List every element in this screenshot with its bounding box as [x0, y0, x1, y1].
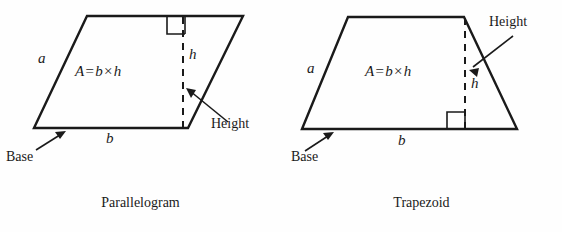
right-angle-icon — [447, 112, 465, 129]
height-arrowhead-icon — [186, 88, 196, 98]
formula-height: h — [404, 63, 412, 79]
figure-caption-trapezoid: Trapezoid — [281, 196, 562, 210]
label-side-a: a — [307, 61, 315, 76]
formula-times-icon: × — [103, 63, 114, 79]
area-formula: A=b×h — [75, 64, 122, 79]
callout-base: Base — [291, 150, 318, 164]
parallelogram-outline — [34, 16, 243, 128]
formula-height: h — [114, 63, 122, 79]
formula-equals: = — [84, 63, 95, 79]
formula-base: b — [385, 63, 393, 79]
callout-height: Height — [211, 117, 249, 131]
figure-trapezoid: a A=b×h h b Base Height Trapezoid — [281, 0, 562, 232]
figure-caption-parallelogram: Parallelogram — [0, 196, 281, 210]
label-side-a: a — [38, 51, 46, 66]
label-base-b: b — [106, 131, 114, 146]
formula-equals: = — [374, 63, 385, 79]
callout-height: Height — [489, 15, 527, 29]
formula-base: b — [95, 63, 103, 79]
label-height-h: h — [189, 47, 197, 62]
formula-times-icon: × — [393, 63, 404, 79]
label-height-h: h — [471, 76, 479, 91]
label-base-b: b — [398, 133, 406, 148]
callout-base: Base — [6, 150, 33, 164]
figure-parallelogram: a A=b×h h b Base Height Parallelogram — [0, 0, 281, 232]
area-formula: A=b×h — [365, 64, 412, 79]
geometry-diagram-page: a A=b×h h b Base Height Parallelogram — [0, 0, 562, 232]
